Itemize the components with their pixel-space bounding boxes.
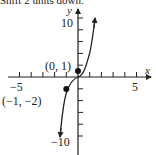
x-tick-label-5: 5	[132, 80, 138, 94]
point-label-neg1-neg2: (−1, −2)	[2, 94, 42, 108]
point-neg1-neg2	[63, 86, 69, 92]
x-axis-label: x	[144, 64, 150, 76]
graph: x y −5 5 10 −10 (0, 1) (−1, −2)	[0, 0, 156, 155]
x-tick-label-neg5: −5	[10, 80, 23, 94]
y-axis-label: y	[66, 4, 72, 16]
point-0-1	[75, 68, 81, 74]
y-tick-label-10: 10	[61, 16, 73, 30]
y-tick-label-neg10: −10	[51, 135, 70, 149]
curve-arrow-up	[94, 18, 95, 28]
point-label-0-1: (0, 1)	[45, 59, 71, 73]
